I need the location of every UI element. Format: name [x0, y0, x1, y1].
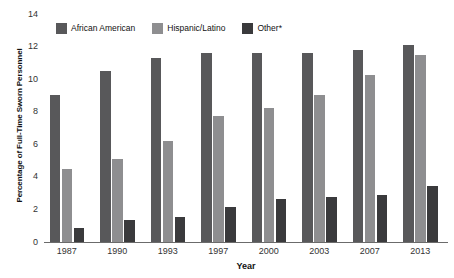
bar	[151, 58, 162, 242]
bar	[415, 55, 426, 242]
legend-swatch-icon	[242, 23, 253, 34]
bar	[213, 116, 224, 242]
plot-area	[44, 14, 448, 243]
x-tick-label: 2000	[249, 246, 289, 257]
bar-group	[151, 14, 186, 242]
bar	[175, 217, 186, 242]
bar	[163, 141, 174, 242]
y-tick-label: 0	[16, 238, 38, 247]
y-tick-label: 10	[16, 75, 38, 84]
bar	[112, 159, 123, 242]
y-axis-tick-labels: 02468101214	[12, 0, 38, 278]
bar-chart: Percentage of Full-Time Sworn Personnel …	[0, 0, 454, 278]
bar	[100, 71, 111, 242]
bar-group	[50, 14, 85, 242]
legend-swatch-icon	[152, 23, 163, 34]
bar-group	[302, 14, 337, 242]
x-axis-line	[44, 242, 448, 243]
legend-label: Hispanic/Latino	[167, 23, 225, 34]
bar	[427, 186, 438, 242]
bar	[314, 95, 325, 242]
x-tick-label: 2013	[400, 246, 440, 257]
bar	[403, 45, 414, 242]
bar	[252, 53, 263, 242]
x-tick-label: 2003	[299, 246, 339, 257]
bar	[377, 195, 388, 242]
x-tick-label: 1997	[198, 246, 238, 257]
y-tick-label: 12	[16, 42, 38, 51]
y-tick-label: 2	[16, 205, 38, 214]
legend-swatch-icon	[56, 23, 67, 34]
bar-group	[353, 14, 388, 242]
bar	[62, 169, 73, 242]
bar-group	[252, 14, 287, 242]
y-tick-label: 4	[16, 172, 38, 181]
bar	[74, 228, 85, 242]
bar	[225, 207, 236, 242]
bar	[124, 220, 135, 242]
bar	[365, 75, 376, 242]
x-tick-label: 1987	[47, 246, 87, 257]
y-tick-label: 8	[16, 107, 38, 116]
bar	[326, 197, 337, 242]
y-tick-label: 14	[16, 10, 38, 19]
legend-item[interactable]: Other*	[242, 23, 282, 34]
bar-group	[403, 14, 438, 242]
bar	[302, 53, 313, 242]
bar	[353, 50, 364, 242]
x-axis-tick-labels: 19871990199319972000200320072013	[44, 246, 448, 260]
legend-item[interactable]: African American	[56, 23, 135, 34]
legend-label: Other*	[257, 23, 282, 34]
bar-group	[201, 14, 236, 242]
bar	[276, 199, 287, 242]
legend: African AmericanHispanic/LatinoOther*	[56, 23, 282, 34]
y-tick-label: 6	[16, 140, 38, 149]
bar	[264, 108, 275, 242]
legend-item[interactable]: Hispanic/Latino	[152, 23, 225, 34]
x-tick-label: 1990	[97, 246, 137, 257]
x-axis-title: Year	[44, 261, 448, 271]
bar	[201, 53, 212, 242]
legend-label: African American	[71, 23, 135, 34]
x-tick-label: 1993	[148, 246, 188, 257]
bar	[50, 95, 61, 242]
bar-group	[100, 14, 135, 242]
x-tick-label: 2007	[350, 246, 390, 257]
